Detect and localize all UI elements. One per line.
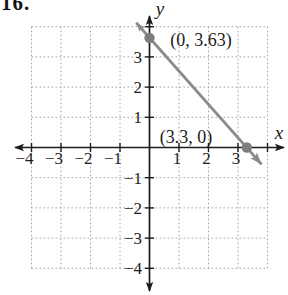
x-tick-label: −4 xyxy=(15,149,34,168)
x-tick-label: 2 xyxy=(202,149,211,168)
x-tick-label: 3 xyxy=(232,149,241,168)
x-tick-label: −1 xyxy=(104,149,122,168)
y-tick-label: 2 xyxy=(134,78,143,97)
x-axis-label: x xyxy=(274,122,284,143)
x-tick-label: 1 xyxy=(173,149,182,168)
y-axis-label: y xyxy=(154,0,165,19)
y-tick-label: −3 xyxy=(124,229,142,248)
y-tick-label: −4 xyxy=(124,259,143,278)
point-dot xyxy=(242,142,252,152)
y-tick-label: 1 xyxy=(134,108,143,127)
problem-number: 16. xyxy=(1,0,30,16)
y-tick-label: −1 xyxy=(124,169,142,188)
x-tick-label: −2 xyxy=(74,149,92,168)
point-label-y-intercept: (0, 3.63) xyxy=(170,30,232,51)
point-label-x-intercept: (3.3, 0) xyxy=(160,127,213,148)
coordinate-plane: −4−3−2−1123321−1−2−3−4 x y (0, 3.63) (3.… xyxy=(0,0,288,295)
x-tick-label: −3 xyxy=(45,149,63,168)
point-dot xyxy=(144,33,154,43)
tick-labels: −4−3−2−1123321−1−2−3−4 xyxy=(15,48,240,278)
y-tick-label: −2 xyxy=(124,199,142,218)
y-tick-label: 3 xyxy=(134,48,143,67)
